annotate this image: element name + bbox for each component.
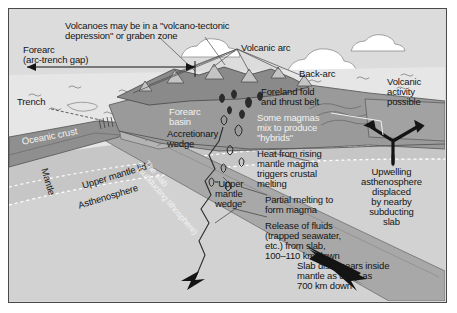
release-of-fluids-label: Release of fluids (trapped seawater, etc… <box>265 221 341 261</box>
diagram-frame: Volcanoes may be in a "volcano-tectonic … <box>8 8 447 303</box>
some-magmas-label: Some magmas mix to produce "hybrids" <box>257 113 319 143</box>
volcanic-arc-label: Volcanic arc <box>241 43 290 53</box>
volcanic-activity-label: Volcanic activity possible <box>387 77 421 107</box>
subduction-zone-figure: Volcanoes may be in a "volcano-tectonic … <box>0 0 457 313</box>
partial-melting-label: Partial melting to form magma <box>265 195 333 215</box>
heat-from-rising-label: Heat from rising mantle magma triggers c… <box>257 149 322 189</box>
accretionary-wedge-label: Accretionary wedge <box>167 129 218 149</box>
slab-disappears-label: Slab disappears inside mantle as deep as… <box>297 261 389 291</box>
forearc-gap-label: Forearc (arc-trench gap) <box>23 45 88 65</box>
upper-mantle-wedge-label: "Upper mantle wedge" <box>215 179 245 209</box>
forearc-basin-label: Forearc basin <box>169 107 201 127</box>
foreland-fold-label: Foreland fold and thrust belt <box>261 87 319 107</box>
back-arc-label: Back-arc <box>299 69 335 79</box>
headline-label: Volcanoes may be in a "volcano-tectonic … <box>65 21 229 41</box>
trench-label: Trench <box>17 97 45 107</box>
upwelling-label: Upwelling asthenosphere displaced by nea… <box>361 167 422 227</box>
